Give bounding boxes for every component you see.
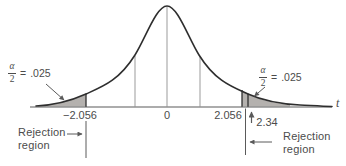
distribution-curve — [36, 6, 332, 107]
t-axis-label: t — [336, 96, 339, 111]
left-alpha-value: .025 — [30, 67, 50, 79]
right-alpha-fraction: α 2 — [259, 66, 267, 88]
right-alpha-label: α 2 = .025 — [259, 66, 302, 88]
center-tick-label: 0 — [164, 109, 170, 121]
right-alpha-value: .025 — [281, 71, 301, 83]
alpha-symbol: α — [260, 66, 267, 77]
alpha-symbol: α — [9, 62, 16, 73]
right-critical-tick-label: 2.056 — [214, 109, 242, 121]
left-rejection-region-caption: Rejection region — [18, 126, 66, 151]
observed-t-label: 2.34 — [256, 116, 277, 128]
left-alpha-leader-arrow — [46, 84, 64, 100]
right-alpha-leader-arrow — [255, 87, 266, 96]
right-rejection-region-caption: Rejection region — [283, 130, 331, 155]
t-distribution-figure: α 2 = .025 α 2 = .025 −2.056 0 2.056 2.3… — [0, 0, 346, 166]
left-critical-tick-label: −2.056 — [63, 109, 97, 121]
left-alpha-label: α 2 = .025 — [8, 62, 51, 84]
left-alpha-fraction: α 2 — [8, 62, 16, 84]
